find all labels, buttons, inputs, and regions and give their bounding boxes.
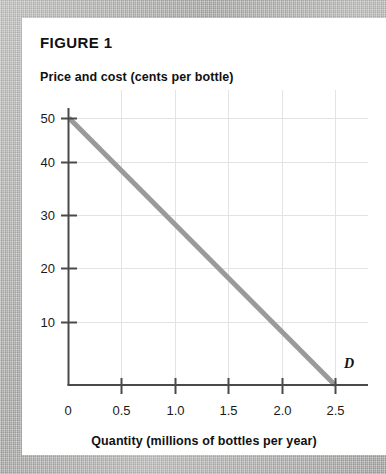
x-tick-label-0-5: 0.5: [112, 403, 130, 418]
figure-card: FIGURE 1 Price and cost (cents per bottl…: [22, 18, 386, 455]
x-tick-label-2-0: 2.0: [273, 403, 291, 418]
x-axis-title: Quantity (millions of bottles per year): [22, 434, 386, 448]
y-tick-label-30: 30: [41, 208, 55, 223]
x-tick-label-1-0: 1.0: [166, 403, 184, 418]
y-tick-label-10: 10: [41, 315, 55, 330]
x-tick-label-2-5: 2.5: [326, 403, 344, 418]
y-tick-label-40: 40: [41, 155, 55, 170]
y-tick-label-50: 50: [41, 111, 55, 126]
demand-curve-chart: 50 40 30 20 10 0 0.5 1.0 1.5 2.0 2.5 D: [22, 18, 386, 455]
demand-curve-line: [69, 118, 335, 385]
vertical-gridlines: [122, 90, 336, 385]
horizontal-gridlines: [68, 119, 368, 323]
x-tick-label-1-5: 1.5: [219, 403, 237, 418]
x-tick-label-0: 0: [64, 403, 71, 418]
demand-curve-label: D: [343, 356, 354, 371]
y-tick-label-20: 20: [41, 261, 55, 276]
chart-plot-area: 50 40 30 20 10 0 0.5 1.0 1.5 2.0 2.5 D: [22, 18, 386, 455]
